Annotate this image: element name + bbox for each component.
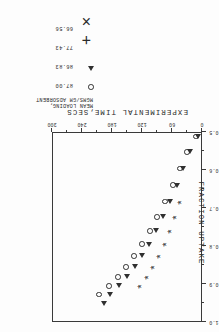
y-tick-label: 0.5 [209,129,211,135]
x-tick-label: 240 [77,121,87,127]
legend-item-value: 86.83 [55,63,73,69]
y-tick-label: 0.6 [209,167,211,173]
legend-item-value: 77.43 [55,44,73,50]
y-minor-tick [202,302,204,303]
x-tick-label: 60 [169,121,175,127]
plot-area: ++++++++×××××××× 060120180240300 0.50.60… [52,132,202,322]
y-axis: 0.50.60.70.80.91.0 [52,132,202,322]
y-tick-label: 0.8 [209,243,211,249]
legend-item-value: 87.00 [55,82,73,88]
y-axis-title: FRACTION UPTAKE [197,148,205,298]
triangle-marker-icon [80,57,91,68]
y-tick-label: 0.9 [209,281,211,287]
y-tick-label: 1.0 [209,319,211,325]
legend-title: MEAN LOADING, MGMS/GM ADSORBENT [36,96,93,108]
x-tick-label: 0 [200,121,203,127]
circle-marker-icon [80,76,91,87]
legend: MEAN LOADING, MGMS/GM ADSORBENT 87.0086.… [5,6,93,110]
x-axis-title: EXPERIMENTAL TIME,SECS [66,108,188,116]
figure-canvas: MEAN LOADING, MGMS/GM ADSORBENT 87.0086.… [0,0,211,332]
plus-marker-icon: + [80,38,91,49]
legend-item-value: 66.56 [55,25,73,31]
y-tick [202,131,206,132]
y-tick [202,321,206,322]
x-tick-label: 180 [107,121,117,127]
y-tick-label: 0.7 [209,205,211,211]
x-tick-label: 300 [47,121,57,127]
cross-marker-icon: × [80,19,91,30]
legend-title-line2: MGMS/GM ADSORBENT [36,96,93,102]
x-tick-label: 120 [137,121,147,127]
